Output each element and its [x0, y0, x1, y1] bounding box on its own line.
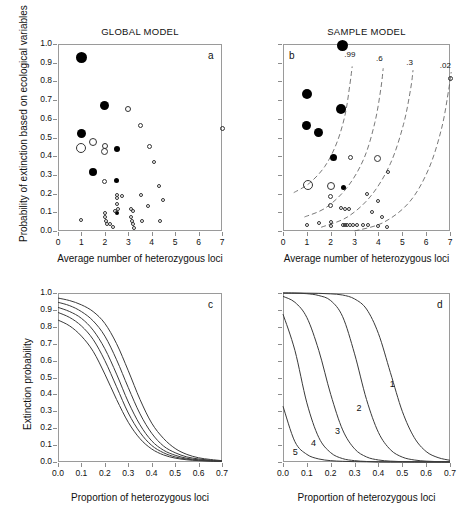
panel-c-xtick — [199, 463, 200, 467]
panel-c-xaxis-label: Proportion of heterozygous loci — [36, 492, 244, 503]
panel-title: GLOBAL MODEL — [58, 26, 222, 37]
panel-b-letter: b — [289, 50, 295, 61]
panel-d-curve-label-2: 2 — [356, 403, 361, 413]
panel-c-ytick-label: 0.1 — [22, 439, 52, 449]
panel-c-xtick — [222, 463, 223, 467]
panel-c-xtick — [81, 463, 82, 467]
panel-c-xtick-label: 0.7 — [208, 468, 236, 478]
panel-title: SAMPLE MODEL — [283, 26, 450, 37]
panel-d-ytick — [278, 293, 282, 294]
panel-c-letter: c — [208, 299, 213, 310]
panel-a-ytick — [53, 81, 57, 82]
panel-d-curve-label-5: 5 — [293, 447, 298, 457]
panel-a-letter: a — [208, 50, 214, 61]
panel-b-ytick — [278, 100, 282, 101]
figure-root: GLOBAL MODEL012345670.00.10.20.30.40.50.… — [0, 0, 475, 517]
panel-b-ytick — [278, 194, 282, 195]
panel-d-curve-label-3: 3 — [335, 426, 340, 436]
panel-b-ytick — [278, 44, 282, 45]
panel-c-ytick — [53, 293, 57, 294]
panel-d-letter: d — [437, 299, 443, 310]
panel-d-ytick — [278, 344, 282, 345]
panel-a-xtick — [58, 232, 59, 236]
panel-b-point-open — [374, 155, 381, 162]
panel-d-ytick — [278, 394, 282, 395]
panel-a-xtick — [175, 232, 176, 236]
panel-b-point-open — [317, 221, 321, 225]
panel-a-point-open — [115, 196, 119, 200]
panel-b-xtick — [426, 232, 427, 236]
panel-c-plot-frame — [58, 293, 222, 462]
panel-c-ytick — [53, 327, 57, 328]
panel-d-xtick — [378, 463, 379, 467]
panel-d-ytick — [278, 361, 282, 362]
panel-a-xtick-label: 7 — [208, 237, 236, 247]
panel-a-point-open — [138, 123, 143, 128]
panel-a-xtick — [128, 232, 129, 236]
panel-d-ytick — [278, 411, 282, 412]
panel-c-ytick-label: 0.9 — [22, 304, 52, 314]
panel-a-point-open — [157, 184, 161, 188]
panel-b-ytick — [278, 175, 282, 176]
panel-c-yaxis-label: Extinction probability — [22, 338, 33, 430]
panel-a-xtick — [199, 232, 200, 236]
panel-b-contour-label: .3 — [406, 58, 413, 67]
panel-a-ytick — [53, 63, 57, 64]
panel-b-ytick — [278, 81, 282, 82]
panel-a-point-open — [139, 193, 143, 197]
panel-b-point-open — [329, 220, 333, 224]
panel-a-point-open — [115, 202, 119, 206]
panel-a-point-open — [158, 219, 162, 223]
panel-d-xtick — [426, 463, 427, 467]
panel-b-contour-label: .02 — [440, 61, 451, 70]
panel-b-point-filled — [341, 185, 346, 190]
panel-d-ytick — [278, 378, 282, 379]
panel-d-ytick — [278, 327, 282, 328]
panel-b-xtick-label: 7 — [436, 237, 464, 247]
panel-a-ytick — [53, 194, 57, 195]
panel-a-point-filled — [76, 52, 87, 63]
panel-a-point-open — [152, 160, 156, 164]
panel-d-xtick — [355, 463, 356, 467]
panel-a-xtick — [105, 232, 106, 236]
panel-c-xtick — [152, 463, 153, 467]
panel-a-xtick — [222, 232, 223, 236]
panel-a-xtick — [81, 232, 82, 236]
panel-a-point-open — [131, 222, 135, 226]
panel-c-ytick — [53, 445, 57, 446]
panel-c-ytick — [53, 361, 57, 362]
panel-c-xtick — [58, 463, 59, 467]
panel-d-xtick — [450, 463, 451, 467]
panel-d-xtick — [307, 463, 308, 467]
panel-a-xtick — [152, 232, 153, 236]
panel-d-ytick — [278, 462, 282, 463]
panel-a-point-open — [146, 204, 150, 208]
panel-a-yaxis-label: Probability of extinction based on ecolo… — [18, 5, 29, 242]
panel-c-ytick — [53, 411, 57, 412]
panel-c-xtick — [175, 463, 176, 467]
panel-b-xtick — [402, 232, 403, 236]
panel-a-ytick — [53, 44, 57, 45]
panel-b-xaxis-label: Average number of heterozygous loci — [261, 253, 472, 264]
panel-d-xtick — [331, 463, 332, 467]
panel-a-point-filled — [114, 146, 120, 152]
panel-d-ytick — [278, 428, 282, 429]
panel-c-ytick — [53, 310, 57, 311]
panel-a-ytick — [53, 119, 57, 120]
panel-b-ytick — [278, 138, 282, 139]
panel-c-ytick — [53, 378, 57, 379]
panel-b-xtick — [331, 232, 332, 236]
panel-c-ytick-label: 0.8 — [22, 321, 52, 331]
panel-b-point-filled — [336, 104, 346, 114]
panel-b-ytick — [278, 156, 282, 157]
panel-a-ytick — [53, 100, 57, 101]
panel-b-ytick — [278, 119, 282, 120]
panel-c-ytick — [53, 394, 57, 395]
panel-a-ytick — [53, 138, 57, 139]
panel-d-curve-label-1: 1 — [390, 379, 395, 389]
panel-d-xaxis-label: Proportion of heterozygous loci — [261, 492, 472, 503]
panel-c-ytick-label: 0.0 — [22, 456, 52, 466]
panel-b-contour-label: .6 — [376, 54, 383, 63]
panel-b-point-open — [448, 76, 453, 81]
panel-d-xtick — [402, 463, 403, 467]
